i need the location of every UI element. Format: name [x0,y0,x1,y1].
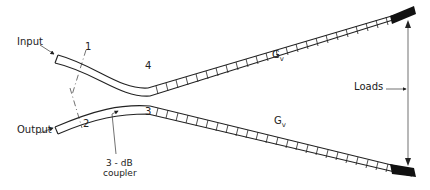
upper-load [390,6,416,24]
coupler-label-line2: coupler [103,168,137,178]
loads-label: Loads [354,81,383,92]
input-label: Input [17,36,43,47]
port-1-label: 1 [85,41,91,52]
port-2-label: 2 [83,118,89,129]
port-3-label: 3 [145,106,151,117]
reference-plane-2 [70,88,82,128]
coupler-diagram: Input Output 1 2 3 4 Gv Gv Loads 3 - dB … [0,0,430,190]
output-label: Output [17,124,52,135]
lower-gain-label: Gv [274,115,286,129]
port-4-label: 4 [145,60,151,71]
coupler-leader [112,111,118,154]
lower-load [390,164,416,177]
coupler-label-line1: 3 - dB [106,158,133,168]
loads-indicator [386,20,411,166]
upper-gain-label: Gv [272,49,284,63]
